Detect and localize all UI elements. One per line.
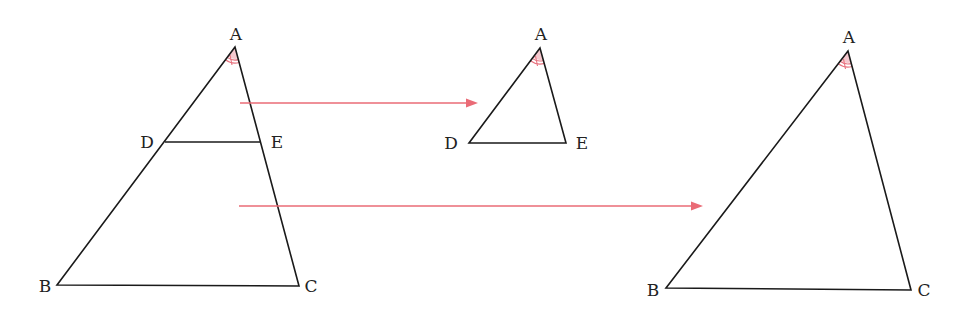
- vertex-label-d: D: [140, 132, 154, 152]
- vertex-label-b: B: [647, 280, 660, 300]
- vertex-label-c: C: [917, 280, 930, 300]
- extracted-triangle-ade: A D E: [444, 24, 588, 153]
- vertex-label-e: E: [271, 132, 283, 152]
- arrow-to-abc: [239, 202, 703, 211]
- vertex-label-c: C: [304, 276, 317, 296]
- vertex-label-a: A: [229, 24, 243, 44]
- vertex-label-a: A: [842, 27, 856, 47]
- original-triangle-abc-with-de: A D E B C: [39, 24, 318, 296]
- vertex-label-b: B: [39, 276, 52, 296]
- vertex-label-a: A: [534, 24, 548, 44]
- vertex-label-d: D: [444, 133, 458, 153]
- triangle-ade-outline: [469, 48, 566, 143]
- diagram-svg: A D E B C A D E: [0, 0, 961, 317]
- vertex-label-e: E: [576, 133, 588, 153]
- triangle-abc-outline: [57, 47, 299, 286]
- similar-triangles-diagram: A D E B C A D E: [0, 0, 961, 317]
- extracted-triangle-abc: A B C: [647, 27, 931, 300]
- arrow-to-ade: [240, 99, 478, 108]
- arrowhead-icon: [466, 99, 478, 108]
- triangle-abc-outline: [666, 51, 911, 290]
- arrowhead-icon: [691, 202, 703, 211]
